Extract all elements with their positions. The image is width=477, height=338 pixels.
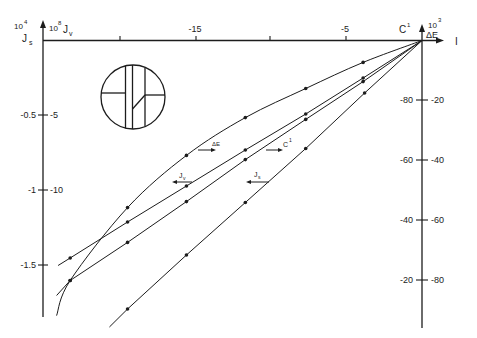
arrowhead-right-icon bbox=[211, 148, 216, 152]
series-js-line bbox=[109, 41, 422, 328]
legend-js: J s bbox=[246, 171, 269, 184]
legend-js-sub: s bbox=[258, 174, 261, 180]
right-inner-tick-label: -60 bbox=[400, 155, 413, 165]
series-c1-marker bbox=[68, 279, 72, 283]
series-js-marker bbox=[304, 147, 308, 151]
series-js-marker bbox=[126, 307, 130, 311]
inset-diagonal bbox=[133, 95, 146, 109]
series-layer bbox=[57, 41, 422, 328]
series-js-marker bbox=[244, 201, 248, 205]
js-tick-label: -0.5 bbox=[20, 110, 36, 120]
left-axis-ticks: -0.5 -1 -1.5 -5 -10 bbox=[20, 110, 63, 270]
delta-e-axis-symbol: ΔE bbox=[426, 30, 438, 40]
legend-jv-label: J bbox=[179, 172, 183, 179]
series-deltae-marker bbox=[244, 116, 248, 120]
js-axis-symbol: J bbox=[22, 33, 27, 44]
inset-membrane-schematic bbox=[101, 65, 165, 129]
legend-delta-e: ΔE bbox=[198, 141, 220, 152]
series-jv-marker bbox=[126, 220, 130, 224]
series-jv-marker bbox=[185, 184, 189, 188]
right-axis: 10 3 ΔE I -80 -60 -40 -20 -20 -40 -60 -8… bbox=[400, 17, 458, 285]
jv-tick-label: -10 bbox=[50, 185, 63, 195]
jv-axis-subscript: v bbox=[69, 30, 73, 37]
series-c1-marker bbox=[126, 241, 130, 245]
series-deltae-marker bbox=[304, 87, 308, 91]
series-deltae-marker bbox=[185, 154, 189, 158]
js-scale-base: 10 bbox=[14, 22, 23, 31]
series-jv-line bbox=[58, 41, 422, 266]
series-js-marker bbox=[185, 253, 189, 257]
x-axis-title-sup: 1 bbox=[407, 22, 411, 28]
series-jv-marker bbox=[68, 256, 72, 260]
legend-c1-sup: 1 bbox=[289, 137, 292, 143]
left-axis-arrow-icon bbox=[40, 20, 46, 28]
js-tick-label: -1.5 bbox=[20, 260, 36, 270]
corner-label: I bbox=[455, 36, 458, 47]
right-inner-tick-label: -40 bbox=[400, 215, 413, 225]
x-tick-label: -5 bbox=[341, 24, 349, 34]
jv-tick-label: -5 bbox=[50, 110, 58, 120]
legend-delta-e-label: ΔE bbox=[212, 141, 220, 147]
arrowhead-right-icon bbox=[278, 148, 283, 152]
arrowhead-left-icon bbox=[246, 180, 251, 184]
top-axis-ticks: -15 -5 C 1 bbox=[120, 22, 411, 40]
legend-jv-sub: v bbox=[183, 175, 186, 181]
series-deltae-marker bbox=[126, 206, 130, 210]
right-inner-tick-label: -80 bbox=[400, 95, 413, 105]
series-jv-marker bbox=[304, 112, 308, 116]
js-tick-label: -1 bbox=[28, 185, 36, 195]
series-c1-marker bbox=[361, 80, 365, 84]
series-deltae-line bbox=[57, 41, 422, 316]
jv-scale-exponent: 8 bbox=[58, 20, 62, 26]
series-c1-marker bbox=[244, 158, 248, 162]
arrowhead-left-icon bbox=[172, 180, 177, 184]
series-c1-line bbox=[57, 41, 422, 296]
x-tick-label: -15 bbox=[188, 24, 201, 34]
legend-js-label: J bbox=[254, 171, 258, 178]
delta-e-scale-exponent: 3 bbox=[438, 17, 442, 23]
right-outer-tick-label: -80 bbox=[431, 275, 444, 285]
series-js-marker bbox=[363, 91, 367, 95]
series-c1-marker bbox=[304, 118, 308, 122]
legend-jv: J v bbox=[172, 172, 192, 184]
series-jv-marker bbox=[244, 148, 248, 152]
series-c1-marker bbox=[185, 200, 189, 204]
axes bbox=[40, 20, 444, 328]
js-axis-subscript: s bbox=[29, 39, 33, 46]
chart-figure: -15 -5 C 1 10 4 J s 10 8 J v -0.5 -1 -1.… bbox=[0, 0, 477, 338]
right-outer-tick-label: -60 bbox=[431, 215, 444, 225]
right-outer-tick-label: -40 bbox=[431, 155, 444, 165]
x-axis-title: C bbox=[399, 24, 406, 35]
series-deltae-marker bbox=[361, 61, 365, 65]
legend-c1-label: C bbox=[283, 141, 288, 148]
right-axis-arrow-icon bbox=[419, 24, 425, 32]
series-jv-marker bbox=[361, 76, 365, 80]
js-scale-exponent: 4 bbox=[24, 19, 28, 25]
right-inner-tick-label: -20 bbox=[400, 275, 413, 285]
right-outer-tick-label: -20 bbox=[431, 95, 444, 105]
legend-c1: C 1 bbox=[266, 137, 292, 152]
jv-axis-symbol: J bbox=[63, 24, 68, 35]
delta-e-scale-base: 10 bbox=[428, 21, 437, 30]
